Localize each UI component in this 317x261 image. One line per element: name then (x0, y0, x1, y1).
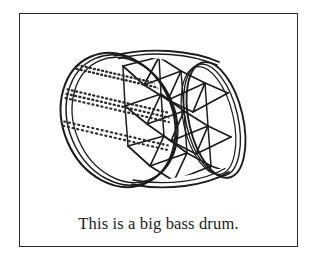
caption: This is a big bass drum. (20, 204, 297, 244)
drum-svg (20, 14, 299, 204)
illustration-card: This is a big bass drum. (19, 13, 298, 247)
caption-text: This is a big bass drum. (78, 214, 238, 234)
page-root: This is a big bass drum. (0, 0, 317, 261)
drum-illustration (20, 14, 299, 204)
drum-head-rim (40, 35, 196, 204)
